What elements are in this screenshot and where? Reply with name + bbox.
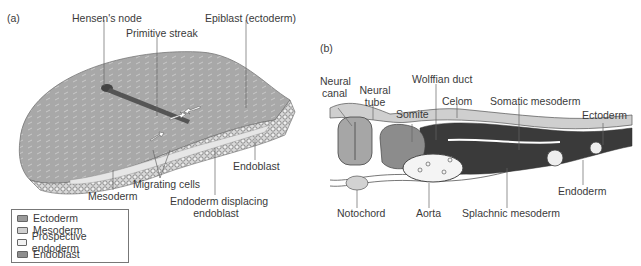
label-migrating-cells: Migrating cells [133, 179, 200, 191]
label-wolffian-duct: Wolffian duct [412, 74, 472, 86]
label-splachnic-mesoderm: Splachnic mesoderm [462, 208, 560, 220]
label-mesoderm: Mesoderm [88, 191, 138, 203]
endoblast-swatch-icon [17, 251, 28, 258]
panel-b-tag: (b) [320, 43, 333, 55]
label-endoblast: Endoblast [233, 161, 280, 173]
label-primitive-streak: Primitive streak [126, 28, 198, 40]
aorta-shape [403, 154, 463, 182]
label-hensens-node: Hensen's node [72, 13, 142, 25]
label-ectoderm: Ectoderm [582, 110, 627, 122]
label-somite: Somite [396, 109, 429, 121]
mesoderm-swatch-icon [17, 227, 28, 234]
label-endoderm: Endoderm [558, 186, 606, 198]
label-neural-canal: Neural canal [320, 76, 351, 99]
ectoderm-swatch-icon [17, 215, 28, 222]
label-somatic-mesoderm: Somatic mesoderm [490, 96, 580, 108]
legend-item-ectoderm: Ectoderm [17, 212, 123, 224]
prospective-endoderm-swatch-icon [17, 239, 27, 246]
wolffian-duct-section [547, 150, 563, 166]
label-aorta: Aorta [416, 208, 441, 220]
legend-item-prospective-endoderm: Prospective endoderm [17, 236, 123, 248]
legend: Ectoderm Mesoderm Prospective endoderm E… [11, 209, 129, 263]
label-celom: Celom [442, 96, 472, 108]
label-epiblast: Epiblast (ectoderm) [205, 13, 296, 25]
panel-a-tag: (a) [7, 13, 20, 25]
notochord-shape [346, 176, 368, 190]
label-endoderm-displacing: Endoderm displacing endoblast [170, 196, 262, 219]
label-notochord: Notochord [337, 208, 385, 220]
label-neural-tube: Neural tube [358, 85, 392, 108]
